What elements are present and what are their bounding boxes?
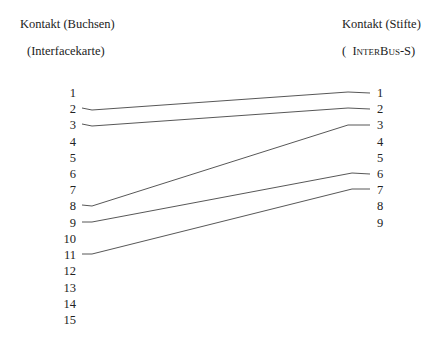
wire-2-to-1 — [82, 92, 370, 110]
wiring-diagram — [0, 0, 435, 341]
wire-9-to-6 — [82, 173, 370, 222]
wire-8-to-3 — [82, 125, 370, 206]
wire-11-to-7 — [82, 189, 370, 254]
wire-3-to-2 — [82, 108, 370, 126]
